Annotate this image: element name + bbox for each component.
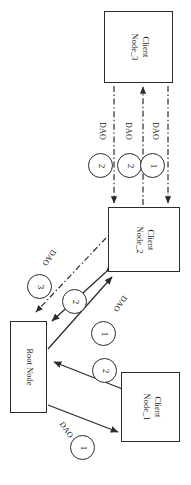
- dao-network-diagram: Client Node_3 Client Node_2 Root Node Cl…: [0, 0, 191, 485]
- node-label-root-node: Root Node: [23, 348, 34, 385]
- edge-label-dao-n2-n3-right: DAO: [151, 122, 160, 140]
- edge-label-dao-n2-n3-left: DAO: [98, 122, 107, 140]
- sequence-marker-n3-middle: 2: [117, 153, 142, 178]
- node-client-node-3[interactable]: Client Node_3: [104, 11, 173, 83]
- edge-label-dao-n2-n3-middle: DAO: [124, 122, 133, 140]
- node-label-client-node-1: Client Node_1: [140, 394, 161, 421]
- node-root-node[interactable]: Root Node: [10, 321, 47, 413]
- sequence-marker-n1-root: 2: [92, 358, 117, 383]
- node-label-client-node-3: Client Node_3: [128, 34, 149, 61]
- sequence-marker-n3-right: 1: [140, 153, 165, 178]
- sequence-marker-root-bidi: 2: [62, 289, 87, 314]
- sequence-marker-root-dash: 3: [27, 274, 52, 299]
- node-client-node-2[interactable]: Client Node_2: [108, 207, 180, 272]
- sequence-marker-root-n2: 1: [91, 321, 116, 346]
- sequence-marker-n3-left: 2: [88, 153, 113, 178]
- node-label-client-node-2: Client Node_2: [134, 226, 155, 253]
- sequence-marker-root-n1: 1: [70, 435, 95, 460]
- node-client-node-1[interactable]: Client Node_1: [121, 372, 180, 442]
- conn-root-to-n1: [48, 405, 118, 432]
